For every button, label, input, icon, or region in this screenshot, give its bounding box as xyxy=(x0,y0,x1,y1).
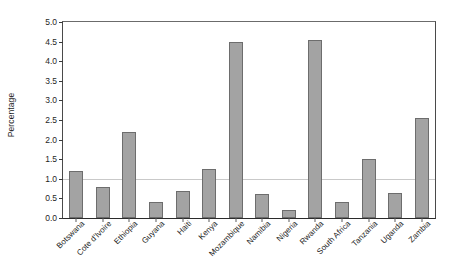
bar xyxy=(149,202,163,218)
bar-slot xyxy=(302,22,329,218)
y-axis-tick-label: 4.5 xyxy=(45,37,57,47)
bar-slot xyxy=(382,22,409,218)
bar-chart: Percentage 5.04.54.03.53.02.52.01.51.00.… xyxy=(0,0,452,280)
bar-slot xyxy=(196,22,223,218)
y-axis-tick-label: 3.0 xyxy=(45,95,57,105)
bar-slot xyxy=(143,22,170,218)
x-axis-tick-label: Guyana xyxy=(138,219,167,248)
x-axis-tick-label: Zambia xyxy=(405,219,433,247)
x-axis-label-group: BotswanaCote d'IvoireEthiopiaGuyanaHaiti… xyxy=(62,219,436,280)
y-axis-tick-label: 5.0 xyxy=(45,17,57,27)
x-axis-tick-label-text: Uganda xyxy=(377,219,406,248)
bar xyxy=(122,132,136,218)
bar-slot xyxy=(169,22,196,218)
bar xyxy=(335,202,349,218)
y-axis-tick-label: 4.0 xyxy=(45,56,57,66)
x-axis-tick-label-text: Zambia xyxy=(405,219,433,247)
x-axis-tick-label: Ethiopia xyxy=(111,219,140,248)
bar-slot xyxy=(249,22,276,218)
x-axis-tick-label: Namibia xyxy=(243,219,272,248)
x-axis-tick-label-text: Namibia xyxy=(243,219,272,248)
bar-group xyxy=(63,22,435,218)
x-axis-tick-label: Uganda xyxy=(377,219,406,248)
x-axis-tick-label: Tanzania xyxy=(348,219,379,250)
bar-slot xyxy=(63,22,90,218)
bar xyxy=(282,210,296,218)
y-axis-tick-label: 2.5 xyxy=(45,115,57,125)
y-axis-tick-label: 1.5 xyxy=(45,154,57,164)
bar-slot xyxy=(329,22,356,218)
bar-slot xyxy=(355,22,382,218)
bar-slot xyxy=(408,22,435,218)
bar xyxy=(362,159,376,218)
y-axis-tick-label: 0.0 xyxy=(45,213,57,223)
bar xyxy=(69,171,83,218)
x-axis-tick-label-text: Tanzania xyxy=(348,219,379,250)
bar-slot xyxy=(90,22,117,218)
x-axis-tick-label-text: Haiti xyxy=(173,219,193,239)
bar xyxy=(415,118,429,218)
x-axis-tick-label-text: Guyana xyxy=(138,219,167,248)
bar-slot xyxy=(276,22,303,218)
y-axis-title: Percentage xyxy=(0,0,22,230)
x-axis-tick-label-text: Ethiopia xyxy=(111,219,140,248)
plot-area: 5.04.54.03.53.02.52.01.51.00.50.0 xyxy=(62,21,436,219)
bar xyxy=(176,191,190,218)
y-axis-tick-label: 1.0 xyxy=(45,174,57,184)
bar xyxy=(388,193,402,218)
x-axis-tick-label-text: Kenya xyxy=(195,219,220,244)
bar xyxy=(308,40,322,218)
x-axis-tick-label: Kenya xyxy=(195,219,220,244)
y-axis-tick-label: 2.0 xyxy=(45,135,57,145)
y-axis-tick-label: 0.5 xyxy=(45,193,57,203)
bar-slot xyxy=(116,22,143,218)
bar xyxy=(255,194,269,218)
bar-slot xyxy=(222,22,249,218)
bar xyxy=(229,42,243,218)
bar xyxy=(96,187,110,218)
bar xyxy=(202,169,216,218)
y-axis-title-label: Percentage xyxy=(6,93,16,137)
y-axis-tick-label: 3.5 xyxy=(45,76,57,86)
x-axis-tick-label: Haiti xyxy=(173,219,193,239)
